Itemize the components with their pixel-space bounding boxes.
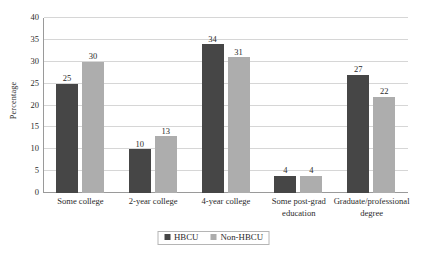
bar-value-label: 4 [309, 166, 313, 175]
bar-value-label: 34 [208, 35, 217, 44]
chart-legend: HBCUNon-HBCU [157, 231, 270, 245]
legend-swatch-icon [164, 234, 170, 240]
bar-value-label: 22 [380, 87, 389, 96]
bar-value-label: 31 [234, 48, 243, 57]
bar-non-hbcu[interactable]: 22 [373, 97, 395, 193]
legend-swatch-icon [210, 234, 216, 240]
y-tick-label: 5 [35, 166, 39, 175]
legend-label: HBCU [174, 233, 198, 242]
bar-value-label: 27 [354, 65, 363, 74]
bar-group: 2530 [44, 18, 117, 193]
y-axis-title-text: Percentage [10, 81, 19, 118]
bar-hbcu[interactable]: 25 [56, 84, 78, 193]
bar-hbcu[interactable]: 4 [274, 176, 296, 194]
bars-layer: 253010133431442722 [44, 18, 408, 193]
legend-label: Non-HBCU [220, 233, 263, 242]
plot-area: 0510152025303540 253010133431442722 [44, 18, 408, 193]
bar-group: 1013 [117, 18, 190, 193]
x-tick-line: Graduate/professional [329, 196, 414, 208]
y-tick-label: 40 [31, 13, 40, 22]
y-tick-label: 20 [31, 100, 40, 109]
y-tick-label: 25 [31, 78, 40, 87]
y-tick-label: 10 [31, 144, 40, 153]
y-tick-label: 30 [31, 57, 40, 66]
y-tick-label: 35 [31, 35, 40, 44]
bar-value-label: 4 [283, 166, 287, 175]
bar-value-label: 10 [136, 140, 145, 149]
bar-chart-figure: Percentage 0510152025303540 253010133431… [0, 0, 427, 257]
bar-non-hbcu[interactable]: 30 [82, 62, 104, 193]
legend-item-non-hbcu[interactable]: Non-HBCU [210, 233, 263, 242]
bar-group: 2722 [335, 18, 408, 193]
bar-group: 44 [262, 18, 335, 193]
bar-hbcu[interactable]: 34 [202, 44, 224, 193]
bar-non-hbcu[interactable]: 31 [228, 57, 250, 193]
bar-non-hbcu[interactable]: 13 [155, 136, 177, 193]
bar-value-label: 13 [162, 127, 171, 136]
bar-value-label: 30 [89, 52, 98, 61]
bar-hbcu[interactable]: 10 [129, 149, 151, 193]
bar-value-label: 25 [63, 74, 72, 83]
x-axis-labels: Some college2-year college4-year college… [44, 196, 408, 232]
bar-hbcu[interactable]: 27 [347, 75, 369, 193]
bar-group: 3431 [190, 18, 263, 193]
y-tick-label: 15 [31, 122, 40, 131]
bar-non-hbcu[interactable]: 4 [300, 176, 322, 194]
y-tick-label: 0 [35, 188, 39, 197]
legend-item-hbcu[interactable]: HBCU [164, 233, 198, 242]
y-axis-title: Percentage [4, 0, 24, 200]
x-tick-label: Graduate/professionaldegree [329, 196, 414, 219]
x-tick-line: degree [329, 208, 414, 220]
